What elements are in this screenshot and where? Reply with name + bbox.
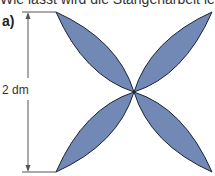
petal-figure (0, 0, 215, 176)
petal-bottom-right (134, 92, 212, 172)
petal-top-right (134, 12, 212, 92)
dimension-label: 2 dm (2, 83, 29, 97)
petal-bottom-left (56, 92, 134, 172)
petal-top-left (56, 12, 134, 92)
